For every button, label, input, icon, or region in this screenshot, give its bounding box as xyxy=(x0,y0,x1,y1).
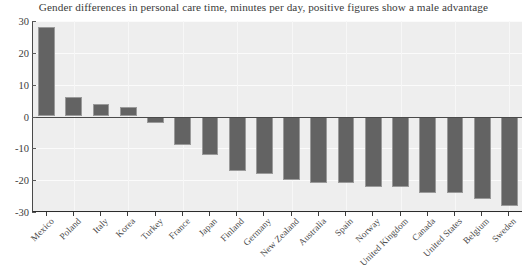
bar xyxy=(65,97,82,116)
y-axis-tick-mark xyxy=(32,53,36,54)
bar xyxy=(38,27,55,116)
x-axis-tick-label: Turkey xyxy=(139,216,165,242)
bar xyxy=(338,117,355,184)
y-axis-tick-label: 20 xyxy=(3,47,29,58)
x-axis-tick-label: Korea xyxy=(114,216,137,239)
chart-figure: Gender differences in personal care time… xyxy=(0,0,527,271)
bar xyxy=(202,117,219,155)
x-axis-tick-label: Spain xyxy=(333,216,355,238)
bar xyxy=(283,117,300,181)
y-axis-tick-label: 10 xyxy=(3,79,29,90)
bar xyxy=(419,117,436,193)
y-axis-tick-marks xyxy=(32,21,37,212)
x-axis-tick-label: Poland xyxy=(57,216,83,242)
y-axis-tick-mark xyxy=(32,21,36,22)
y-axis-tick-label: -10 xyxy=(3,143,29,154)
x-axis-tick-label: Mexico xyxy=(28,216,55,243)
x-axis-tick-label: Australia xyxy=(296,216,328,248)
y-axis-tick-mark xyxy=(32,85,36,86)
bar xyxy=(256,117,273,174)
x-axis-tick-label: Belgium xyxy=(461,216,491,246)
y-axis-tick-label: 30 xyxy=(3,16,29,27)
x-axis-labels: MexicoPolandItalyKoreaTurkeyFranceJapanF… xyxy=(32,216,522,271)
bar xyxy=(120,107,137,117)
y-axis-tick-mark xyxy=(32,148,36,149)
bar xyxy=(174,117,191,146)
zero-line xyxy=(33,117,522,118)
y-axis-tick-label: 0 xyxy=(3,111,29,122)
x-axis-tick-label: Japan xyxy=(197,216,219,238)
bar xyxy=(447,117,464,193)
bar xyxy=(93,104,110,117)
bar xyxy=(310,117,327,184)
y-axis-tick-mark xyxy=(32,212,36,213)
y-axis-tick-mark xyxy=(32,117,36,118)
chart-title: Gender differences in personal care time… xyxy=(0,1,527,13)
bar xyxy=(501,117,518,206)
x-axis-tick-label: Italy xyxy=(91,216,110,235)
bar xyxy=(474,117,491,200)
bar xyxy=(229,117,246,171)
y-axis-tick-label: -30 xyxy=(3,207,29,218)
y-axis-tick-label: -20 xyxy=(3,175,29,186)
x-axis-tick-label: Sweden xyxy=(490,216,518,244)
bar xyxy=(365,117,382,187)
y-axis-labels: 3020100-10-20-30 xyxy=(0,21,29,212)
x-axis-tick-label: France xyxy=(167,216,192,241)
plot-area xyxy=(32,21,522,212)
y-axis-tick-mark xyxy=(32,180,36,181)
bar xyxy=(392,117,409,187)
